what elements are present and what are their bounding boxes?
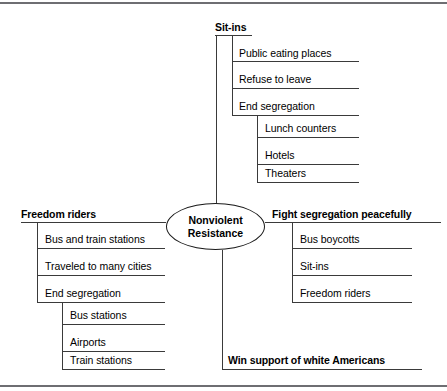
branch-left-child-2-underline <box>37 275 165 276</box>
branch-right-label: Fight segregation peacefully <box>272 209 412 220</box>
branch-top-child-3-underline <box>232 115 359 116</box>
branch-top-grandchild-2-label: Hotels <box>265 150 294 161</box>
branch-left-grandchild-3-label: Train stations <box>70 355 132 366</box>
top-edge-bar <box>0 2 447 4</box>
branch-left-grandchild-1-label: Bus stations <box>70 310 127 321</box>
branch-top-grandchildren-spine <box>257 115 258 182</box>
branch-left-underline <box>21 222 166 223</box>
branch-top-label: Sit-ins <box>215 22 246 33</box>
branch-left-grandchild-2-label: Airports <box>70 337 106 348</box>
center-node-line-1: Nonviolent <box>188 214 242 227</box>
branch-left-child-2-label: Traveled to many cities <box>45 261 151 272</box>
branch-left-children-spine <box>37 222 38 303</box>
branch-left-child-1-underline <box>37 248 165 249</box>
branch-left-grandchild-2-underline <box>62 351 165 352</box>
branch-top-child-3-label: End segregation <box>239 101 315 112</box>
branch-top-grandchild-3-underline <box>257 182 359 183</box>
branch-top-child-1-label: Public eating places <box>239 48 331 59</box>
branch-top-grandchild-3-label: Theaters <box>265 168 306 179</box>
center-node-line-2: Resistance <box>188 227 243 240</box>
branch-top-child-2-label: Refuse to leave <box>239 74 311 85</box>
branch-right-child-1-label: Bus boycotts <box>300 234 360 245</box>
branch-left-child-1-label: Bus and train stations <box>45 234 145 245</box>
branch-bottom-trunk <box>222 250 223 369</box>
branch-left-child-3-underline <box>37 302 165 303</box>
branch-top-grandchild-1-label: Lunch counters <box>265 123 336 134</box>
branch-bottom-underline <box>222 369 422 370</box>
branch-right-child-3-label: Freedom riders <box>300 288 371 299</box>
branch-left-child-3-label: End segregation <box>45 288 121 299</box>
branch-top-grandchild-2-underline <box>257 164 359 165</box>
branch-right-children-spine <box>292 222 293 303</box>
branch-bottom-label: Win support of white Americans <box>228 355 385 366</box>
branch-left-grandchild-1-underline <box>62 324 165 325</box>
branch-left-grandchild-3-underline <box>62 369 165 370</box>
center-node: Nonviolent Resistance <box>166 203 265 250</box>
branch-right-child-2-label: Sit-ins <box>300 261 329 272</box>
branch-left-grandchildren-spine <box>62 302 63 369</box>
branch-left-label: Freedom riders <box>21 209 96 220</box>
branch-right-child-1-underline <box>292 248 412 249</box>
branch-top-grandchild-1-underline <box>257 137 359 138</box>
concept-map-canvas: Sit-ins Public eating places Refuse to l… <box>0 0 447 391</box>
branch-top-trunk <box>216 35 217 203</box>
branch-right-child-3-underline <box>292 302 412 303</box>
branch-top-child-2-underline <box>232 88 359 89</box>
branch-top-underline <box>215 35 252 36</box>
branch-right-child-2-underline <box>292 275 412 276</box>
branch-top-child-1-underline <box>232 61 359 62</box>
bottom-edge-bar <box>0 385 447 387</box>
branch-top-children-spine <box>232 35 233 116</box>
